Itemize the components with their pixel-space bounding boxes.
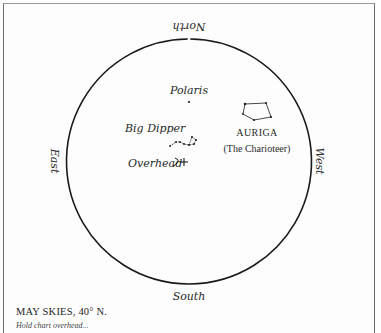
caption-title: MAY SKIES, 40° N. (16, 306, 107, 317)
south-label: South (173, 290, 206, 303)
auriga-sub-label: (The Charioteer) (224, 143, 291, 155)
caption-subtitle: Hold chart overhead... (16, 321, 89, 330)
north-label: North (172, 20, 206, 33)
big-dipper-asterism (170, 137, 196, 146)
overhead-label: Overhead (128, 157, 182, 170)
polaris-label: Polaris (169, 84, 208, 97)
west-label: West (313, 148, 326, 176)
big-dipper-label: Big Dipper (124, 122, 186, 135)
auriga-constellation (242, 102, 272, 121)
auriga-label: AURIGA (236, 127, 278, 138)
east-label: East (48, 148, 61, 174)
polaris-star (188, 101, 190, 103)
horizon-circle (66, 39, 311, 284)
